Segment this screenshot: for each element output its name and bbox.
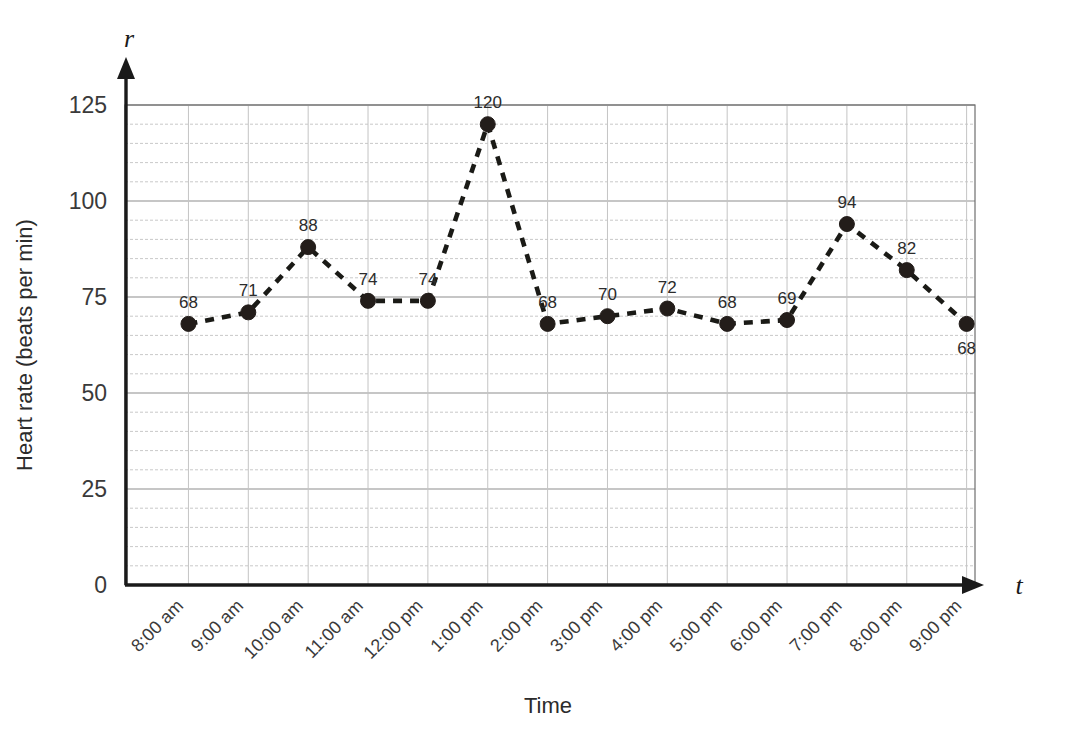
data-point-marker (181, 316, 196, 331)
y-axis-tick-labels: 0255075100125 (69, 92, 107, 598)
data-point-marker (600, 309, 615, 324)
data-point-marker (660, 301, 675, 316)
data-point-marker (720, 316, 735, 331)
x-axis-tick-labels: 8:00 am9:00 am10:00 am11:00 am12:00 pm1:… (127, 596, 965, 663)
data-point-value-label: 82 (897, 239, 916, 258)
x-tick-label: 10:00 am (240, 596, 307, 663)
data-point-value-label: 68 (538, 293, 557, 312)
y-axis-arrowhead (117, 57, 135, 79)
x-tick-label: 8:00 am (127, 596, 187, 656)
data-point-marker (241, 305, 256, 320)
y-tick-label: 75 (81, 284, 107, 310)
data-point-value-label: 88 (299, 216, 318, 235)
plot-area-border (125, 105, 975, 585)
data-point-value-label: 70 (598, 285, 617, 304)
x-axis-variable-label: t (1015, 571, 1023, 600)
x-tick-label: 11:00 am (301, 596, 367, 662)
data-point-marker (899, 263, 914, 278)
data-point-value-label: 74 (418, 270, 437, 289)
y-tick-label: 0 (94, 572, 107, 598)
chart-canvas: t r 0255075100125 8:00 am9:00 am10:00 am… (0, 0, 1065, 743)
data-point-marker (540, 316, 555, 331)
data-point-marker (839, 217, 854, 232)
x-tick-label: 6:00 pm (726, 596, 786, 656)
y-tick-label: 25 (81, 476, 107, 502)
x-tick-label: 2:00 pm (486, 596, 546, 656)
data-point-marker (301, 240, 316, 255)
data-point-marker (361, 293, 376, 308)
y-tick-label: 125 (69, 92, 107, 118)
x-tick-label: 9:00 am (187, 596, 247, 656)
data-point-value-label: 68 (718, 293, 737, 312)
x-tick-label: 5:00 pm (666, 596, 726, 656)
x-axis-title: Time (524, 693, 572, 718)
x-axis-arrowhead (962, 576, 984, 594)
data-point-value-label: 68 (957, 339, 976, 358)
y-tick-label: 50 (81, 380, 107, 406)
x-tick-label: 8:00 pm (845, 596, 905, 656)
data-point-marker (420, 293, 435, 308)
data-point-marker (480, 117, 495, 132)
vertical-gridlines (188, 105, 966, 585)
data-point-value-label: 68 (179, 293, 198, 312)
data-point-marker (780, 313, 795, 328)
y-axis-title: Heart rate (beats per min) (12, 219, 37, 471)
horizontal-minor-gridlines (125, 124, 975, 566)
x-tick-label: 1:00 pm (426, 596, 486, 656)
y-axis-variable-label: r (124, 24, 135, 53)
data-point-value-label: 74 (359, 270, 378, 289)
x-tick-label: 4:00 pm (606, 596, 666, 656)
data-point-marker (959, 316, 974, 331)
data-point-value-label: 120 (474, 93, 502, 112)
x-tick-label: 7:00 pm (786, 596, 846, 656)
heart-rate-chart: t r 0255075100125 8:00 am9:00 am10:00 am… (0, 0, 1065, 743)
data-point-value-label: 69 (778, 289, 797, 308)
x-tick-label: 3:00 pm (546, 596, 606, 656)
data-point-value-label: 94 (837, 193, 856, 212)
x-tick-label: 9:00 pm (905, 596, 965, 656)
x-tick-label: 12:00 pm (359, 596, 426, 663)
y-tick-label: 100 (69, 188, 107, 214)
data-point-value-label: 72 (658, 278, 677, 297)
data-point-value-label: 71 (239, 281, 258, 300)
